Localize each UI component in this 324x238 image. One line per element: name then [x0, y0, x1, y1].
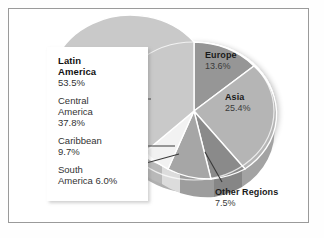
pie-label-other-regions-name: Other Regions	[215, 187, 278, 198]
pie-label-asia-value: 25.4%	[225, 103, 251, 114]
pie-label-europe-value: 13.6%	[205, 61, 237, 72]
pie-chart-stage: Europe 13.6% Asia 25.4% Other Regions 7.…	[9, 9, 310, 224]
legend-central-america-line1: Central	[58, 95, 148, 106]
chart-frame: Europe 13.6% Asia 25.4% Other Regions 7.…	[8, 8, 309, 223]
legend-south-america-line2: America 6.0%	[58, 175, 148, 186]
pie-label-other-regions: Other Regions 7.5%	[215, 187, 278, 208]
legend-latin-america-line1: Latin	[58, 56, 148, 67]
legend-south-america-line1: South	[58, 164, 148, 175]
legend-item-central-america[interactable]: Central America 37.8%	[58, 95, 148, 128]
pie-label-asia: Asia 25.4%	[225, 92, 251, 113]
pie-label-europe-name: Europe	[205, 50, 237, 61]
legend-caribbean-line1: Caribbean	[58, 135, 148, 146]
pie-label-other-regions-value: 7.5%	[215, 198, 278, 209]
pie-label-europe: Europe 13.6%	[205, 50, 237, 71]
legend-central-america-line2: America	[58, 106, 148, 117]
legend-latin-america-line2: America	[58, 67, 148, 78]
chart-root: Europe 13.6% Asia 25.4% Other Regions 7.…	[0, 0, 324, 238]
pie-label-asia-name: Asia	[225, 92, 251, 103]
legend-central-america-value: 37.8%	[58, 117, 148, 128]
legend-group-latin-america: Latin America 53.5%	[58, 56, 148, 88]
legend-caribbean-value: 9.7%	[58, 146, 148, 157]
legend-panel: Latin America 53.5% Central America 37.8…	[47, 47, 148, 201]
legend-item-caribbean[interactable]: Caribbean 9.7%	[58, 135, 148, 157]
legend-item-south-america[interactable]: South America 6.0%	[58, 164, 148, 186]
legend-latin-america-value: 53.5%	[58, 77, 148, 88]
